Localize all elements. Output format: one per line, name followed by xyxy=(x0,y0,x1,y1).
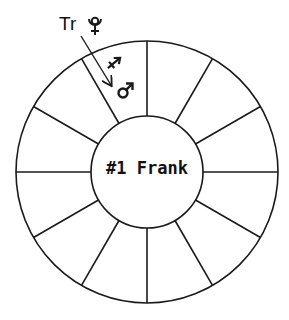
house-cusp-5 xyxy=(195,200,260,238)
house-cusp-8 xyxy=(82,220,120,285)
chart-title: #1 Frank xyxy=(91,160,203,177)
house-cusp-3 xyxy=(195,107,260,145)
transit-label: Tr xyxy=(59,14,76,33)
house-cusp-6 xyxy=(175,220,213,285)
pluto-icon xyxy=(89,18,101,35)
house-cusp-9 xyxy=(34,200,99,238)
house-cusp-11 xyxy=(34,107,99,145)
house-cusp-2 xyxy=(175,59,213,124)
mars-icon xyxy=(119,84,133,98)
sagittarius-icon xyxy=(105,55,122,71)
transit-arrow xyxy=(81,36,111,85)
